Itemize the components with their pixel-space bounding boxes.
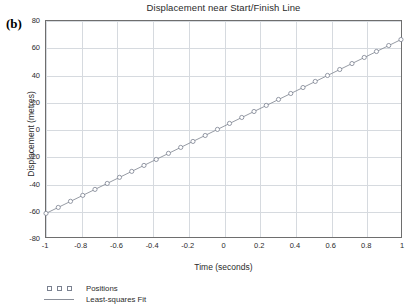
data-point-marker (362, 55, 366, 59)
x-tick-label: 0.2 (254, 241, 264, 250)
data-series-layer (46, 21, 401, 238)
x-tick-label: -1 (42, 241, 49, 250)
data-point-marker (130, 169, 134, 173)
data-point-marker (81, 193, 85, 197)
x-tick-label: -0.6 (110, 241, 123, 250)
x-tick-label: -0.2 (181, 241, 194, 250)
y-tick-label: 20 (6, 97, 40, 106)
data-point-marker (264, 103, 268, 107)
plot-area (45, 20, 402, 238)
data-point-marker (374, 49, 378, 53)
x-tick-label: 1 (400, 241, 404, 250)
legend-label-fit: Least-squares Fit (86, 295, 146, 304)
legend-marker-positions (36, 286, 82, 291)
data-point-marker (387, 43, 391, 47)
data-point-marker (191, 139, 195, 143)
x-tick-label: -0.4 (146, 241, 159, 250)
circle-marker-icon (47, 286, 52, 291)
data-point-marker (215, 127, 219, 131)
legend-item-positions: Positions (36, 283, 146, 294)
data-point-marker (117, 175, 121, 179)
data-point-marker (276, 97, 280, 101)
y-tick-label: 80 (6, 16, 40, 25)
data-point-marker (44, 211, 48, 215)
data-point-marker (227, 121, 231, 125)
data-point-marker (313, 79, 317, 83)
x-tick-label: 0.4 (290, 241, 300, 250)
data-point-marker (56, 205, 60, 209)
x-tick-label: -0.8 (74, 241, 87, 250)
data-point-marker (142, 163, 146, 167)
data-point-marker (154, 157, 158, 161)
y-tick-label: -20 (6, 152, 40, 161)
y-tick-label: 40 (6, 70, 40, 79)
circle-marker-icon (67, 286, 72, 291)
x-tick-label: 0.6 (325, 241, 335, 250)
legend-item-fit: Least-squares Fit (36, 294, 146, 305)
y-tick-label: -40 (6, 179, 40, 188)
y-tick-label: -80 (6, 234, 40, 243)
data-point-marker (203, 133, 207, 137)
data-point-marker (105, 181, 109, 185)
data-point-marker (350, 61, 354, 65)
data-point-marker (252, 109, 256, 113)
data-point-marker (325, 73, 329, 77)
y-tick-label: -60 (6, 206, 40, 215)
data-point-marker (179, 145, 183, 149)
data-point-marker (68, 199, 72, 203)
y-tick-label: 60 (6, 43, 40, 52)
data-point-marker (301, 85, 305, 89)
x-axis-label: Time (seconds) (45, 262, 402, 272)
legend-label-positions: Positions (86, 284, 118, 293)
data-point-marker (338, 67, 342, 71)
chart-legend: Positions Least-squares Fit (36, 283, 146, 305)
line-swatch-icon (44, 299, 74, 300)
data-point-marker (93, 187, 97, 191)
least-squares-fit-line (46, 40, 401, 214)
x-tick-label: 0 (221, 241, 225, 250)
data-point-marker (166, 151, 170, 155)
circle-marker-icon (57, 286, 62, 291)
x-tick-label: 0.8 (361, 241, 371, 250)
data-point-marker (240, 115, 244, 119)
data-point-marker (289, 91, 293, 95)
legend-line-fit (36, 299, 82, 300)
chart-title: Displacement near Start/Finish Line (45, 2, 402, 13)
y-tick-label: 0 (6, 125, 40, 134)
data-point-marker (399, 37, 403, 41)
